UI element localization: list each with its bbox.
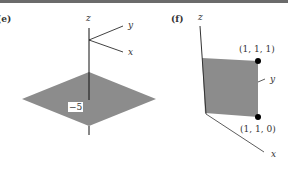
y-axis-label: y <box>127 20 134 30</box>
x-axis-label: x <box>271 149 276 159</box>
point-1-1-0-label: (1, 1, 0) <box>240 124 276 134</box>
vertical-plane <box>202 58 258 117</box>
plane-label: −5 <box>69 102 83 112</box>
x-axis-label: x <box>128 47 133 57</box>
x-axis <box>89 40 123 52</box>
panel-f-label: (f) <box>171 14 183 24</box>
point-1-1-0 <box>255 114 261 120</box>
z-axis-label: z <box>197 12 203 22</box>
panel-e-label: (e) <box>0 14 11 24</box>
y-axis-label: y <box>269 74 276 84</box>
figure-canvas: (e) z y x −5 (f) z y x (1, 1, 1) (1, 1, <box>0 0 294 169</box>
point-1-1-1 <box>255 58 261 64</box>
point-1-1-1-label: (1, 1, 1) <box>239 44 275 54</box>
y-axis <box>89 26 123 40</box>
y-axis <box>258 79 265 82</box>
panel-f: (f) z y x (1, 1, 1) (1, 1, 0) <box>171 12 276 159</box>
panel-e: (e) z y x −5 <box>0 13 156 135</box>
z-axis-label: z <box>85 13 91 23</box>
